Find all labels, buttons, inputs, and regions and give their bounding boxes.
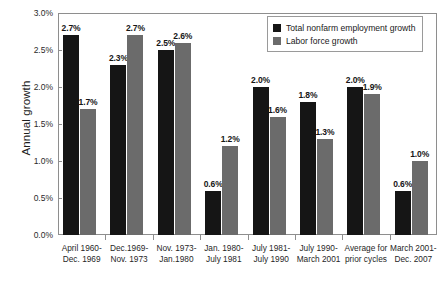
- bar-value-label: 1.3%: [315, 127, 334, 137]
- bar-value-label: 1.2%: [221, 134, 240, 144]
- y-axis-tick-label: 1.0%: [13, 156, 53, 166]
- y-axis-tick-label: 1.5%: [13, 119, 53, 129]
- bar-value-label: 1.9%: [363, 82, 382, 92]
- bar: [63, 35, 79, 235]
- bar: [110, 65, 126, 235]
- x-axis-tick-mark: [342, 235, 343, 240]
- x-axis-tick-mark: [153, 235, 154, 240]
- legend-swatch-icon: [273, 24, 281, 32]
- x-axis-category-label: March 2001-Dec. 2007: [381, 243, 444, 264]
- bar-value-label: 1.6%: [268, 105, 287, 115]
- bar-group: 2.5%2.6%: [153, 13, 200, 235]
- bar: [80, 109, 96, 235]
- x-axis-category-label-line: March 2001-: [381, 243, 444, 254]
- bar: [270, 117, 286, 235]
- bar-value-label: 2.7%: [126, 23, 145, 33]
- legend-item-label: Total nonfarm employment growth: [286, 23, 415, 33]
- y-axis-tick-label: 0.0%: [13, 230, 53, 240]
- x-axis-tick-mark: [248, 235, 249, 240]
- legend-item-label: Labor force growth: [286, 36, 358, 46]
- x-axis-tick-mark: [390, 235, 391, 240]
- bar-value-label: 2.3%: [109, 53, 128, 63]
- x-axis-tick-mark: [295, 235, 296, 240]
- bar-value-label: 0.6%: [393, 179, 412, 189]
- y-axis-tick-label: 0.5%: [13, 193, 53, 203]
- bar: [253, 87, 269, 235]
- y-axis-tick-label: 2.0%: [13, 82, 53, 92]
- bar-value-label: 2.0%: [251, 75, 270, 85]
- bar: [175, 43, 191, 235]
- legend-swatch-icon: [273, 37, 281, 45]
- y-axis-tick-label: 2.5%: [13, 45, 53, 55]
- bar-value-label: 2.6%: [173, 31, 192, 41]
- bar: [205, 191, 221, 235]
- bar: [395, 191, 411, 235]
- bar-value-label: 0.6%: [204, 179, 223, 189]
- bar: [364, 94, 380, 235]
- bar: [127, 35, 143, 235]
- legend-item: Labor force growth: [273, 34, 415, 47]
- bar-value-label: 1.0%: [410, 149, 429, 159]
- bar-group: 2.3%2.7%: [105, 13, 152, 235]
- bar: [317, 139, 333, 235]
- bar-value-label: 1.7%: [79, 97, 98, 107]
- y-axis-title: Annual growth: [20, 48, 32, 188]
- legend-item: Total nonfarm employment growth: [273, 21, 415, 34]
- bar: [222, 146, 238, 235]
- bar: [300, 102, 316, 235]
- y-axis-tick-label: 3.0%: [13, 8, 53, 18]
- bar: [158, 50, 174, 235]
- bar-group: 0.6%1.2%: [200, 13, 247, 235]
- x-axis-tick-mark: [200, 235, 201, 240]
- bar-group: 2.7%1.7%: [58, 13, 105, 235]
- bar: [347, 87, 363, 235]
- bar-value-label: 1.8%: [298, 90, 317, 100]
- bar: [412, 161, 428, 235]
- x-axis-category-label-line: Dec. 2007: [381, 254, 444, 265]
- bar-chart: Annual growth 0.0%0.5%1.0%1.5%2.0%2.5%3.…: [0, 0, 444, 281]
- x-axis-tick-mark: [105, 235, 106, 240]
- bar-value-label: 2.7%: [62, 23, 81, 33]
- chart-legend: Total nonfarm employment growth Labor fo…: [267, 16, 423, 52]
